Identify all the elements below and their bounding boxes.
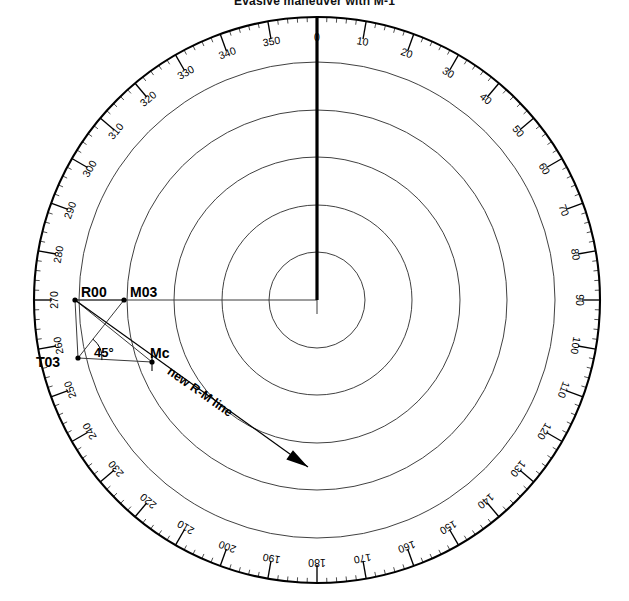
point-label-mc: Mc	[150, 345, 170, 361]
minor-tick-304	[82, 142, 86, 145]
minor-tick-36	[480, 71, 483, 75]
minor-tick-242	[67, 431, 71, 433]
degree-label-220: 220	[137, 491, 158, 512]
minor-tick-58	[553, 150, 557, 153]
minor-tick-48	[524, 111, 528, 114]
degree-label-250: 250	[61, 380, 78, 401]
minor-tick-306	[88, 134, 92, 137]
segment-r00-to-t03	[75, 300, 78, 358]
degree-label-270: 270	[48, 291, 60, 309]
minor-tick-322	[143, 77, 146, 81]
point-label-t03: T03	[36, 354, 60, 370]
minor-tick-116	[567, 422, 571, 424]
minor-tick-26	[439, 46, 441, 50]
minor-tick-236	[82, 455, 86, 458]
minor-tick-154	[439, 550, 441, 554]
new-rm-line-arrowhead	[286, 450, 308, 467]
minor-tick-52	[536, 126, 540, 129]
minor-tick-214	[159, 530, 162, 534]
degree-label-100: 100	[569, 336, 584, 355]
degree-label-10: 10	[356, 34, 370, 48]
polar-compass-plot: 0102030405060708090100110120130140150160…	[0, 0, 629, 601]
minor-tick-134	[517, 493, 521, 496]
minor-tick-224	[120, 500, 123, 504]
minor-tick-32	[464, 60, 467, 64]
point-marker-m03	[121, 297, 126, 302]
minor-tick-302	[77, 150, 81, 153]
minor-tick-316	[120, 96, 123, 100]
minor-tick-216	[151, 525, 154, 529]
point-marker-t03	[75, 355, 80, 360]
minor-tick-128	[536, 471, 540, 474]
minor-tick-126	[542, 463, 546, 466]
minor-tick-44	[510, 96, 513, 100]
minor-tick-222	[128, 507, 131, 511]
segment-t03-to-mc	[78, 358, 152, 362]
minor-tick-118	[562, 431, 566, 433]
minor-tick-218	[143, 519, 146, 523]
minor-tick-152	[448, 545, 450, 549]
degree-label-190: 190	[262, 552, 281, 567]
degree-label-40: 40	[478, 90, 495, 107]
degree-label-180: 180	[308, 557, 326, 569]
minor-tick-332	[184, 50, 186, 54]
minor-tick-142	[488, 519, 491, 523]
minor-tick-42	[503, 90, 506, 94]
degree-label-340: 340	[217, 44, 238, 61]
minor-tick-46	[517, 103, 521, 106]
minor-tick-328	[167, 60, 170, 64]
degree-label-350: 350	[262, 34, 281, 49]
minor-tick-148	[464, 536, 467, 540]
minor-tick-144	[480, 525, 483, 529]
degree-label-290: 290	[61, 200, 78, 221]
degree-label-320: 320	[137, 88, 158, 109]
minor-tick-122	[553, 447, 557, 450]
minor-tick-226	[113, 493, 117, 496]
crosshair-group	[74, 300, 317, 314]
degree-label-160: 160	[397, 539, 418, 556]
minor-tick-238	[77, 447, 81, 450]
diagram-canvas: Evasive maneuver with M-1 01020304050607…	[0, 0, 629, 601]
minor-tick-326	[159, 65, 162, 69]
degree-label-210: 210	[175, 518, 196, 537]
degree-label-200: 200	[217, 538, 238, 555]
degree-label-300: 300	[80, 158, 99, 179]
minor-tick-38	[488, 77, 491, 81]
degree-label-170: 170	[353, 552, 372, 567]
minor-tick-138	[503, 507, 506, 511]
degree-label-90: 90	[574, 294, 586, 306]
minor-tick-324	[151, 71, 154, 75]
degree-label-70: 70	[557, 203, 572, 218]
degree-label-310: 310	[105, 120, 126, 141]
degree-label-80: 80	[569, 248, 583, 262]
degree-label-230: 230	[105, 458, 126, 479]
minor-tick-64	[567, 176, 571, 178]
point-marker-r00	[72, 297, 77, 302]
minor-tick-28	[448, 50, 450, 54]
minor-tick-146	[472, 530, 475, 534]
degree-label-20: 20	[399, 45, 414, 60]
degree-label-150: 150	[438, 518, 459, 537]
minor-tick-308	[94, 126, 98, 129]
degree-label-140: 140	[475, 491, 496, 512]
degree-label-280: 280	[51, 245, 66, 264]
point-label-m03: M03	[130, 284, 157, 300]
new-rm-line-label: new R-M line	[165, 364, 236, 419]
minor-tick-314	[113, 103, 117, 106]
minor-tick-212	[167, 536, 170, 540]
degree-label-120: 120	[535, 421, 554, 442]
minor-tick-54	[542, 134, 546, 137]
degree-label-110: 110	[556, 380, 573, 400]
minor-tick-334	[193, 46, 195, 50]
minor-tick-62	[562, 167, 566, 169]
degree-label-240: 240	[80, 421, 99, 442]
minor-tick-232	[94, 471, 98, 474]
degree-label-30: 30	[440, 64, 456, 80]
minor-tick-124	[547, 455, 551, 458]
minor-tick-34	[472, 65, 475, 69]
minor-tick-56	[547, 142, 551, 145]
minor-tick-244	[63, 422, 67, 424]
degree-label-260: 260	[51, 336, 66, 355]
minor-tick-318	[128, 90, 131, 94]
minor-tick-296	[63, 176, 67, 178]
